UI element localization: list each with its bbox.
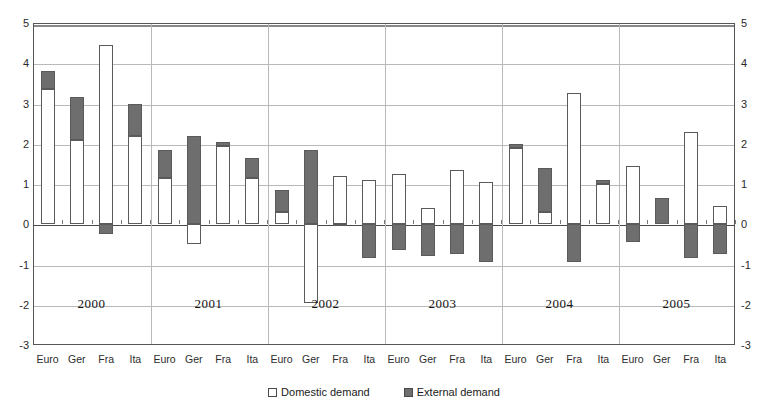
axis-tick-mark	[62, 220, 63, 224]
bar-segment-domestic-demand	[479, 182, 493, 224]
bar-segment-domestic-demand	[333, 176, 347, 224]
bar-2004-Euro	[509, 23, 523, 345]
bar-segment-external-demand	[509, 144, 523, 148]
axis-tick-mark	[501, 220, 502, 224]
bar-segment-external-demand	[684, 224, 698, 258]
stacked-bar-chart: 543210-1-2-3 543210-1-2-3 20002001200220…	[0, 0, 768, 415]
tick-label-ita: Ita	[247, 353, 259, 365]
bar-segment-external-demand	[333, 224, 347, 226]
axis-tick-mark	[355, 220, 356, 224]
chart-legend: Domestic demand External demand	[0, 386, 768, 398]
hollow-square-swatch-icon	[268, 388, 277, 397]
year-label-2001: 2001	[195, 296, 223, 312]
tick-label-ger: Ger	[419, 353, 437, 365]
y-tick-label-right: -2	[741, 299, 751, 310]
bar-segment-domestic-demand	[99, 45, 113, 224]
tick-label-ger: Ger	[185, 353, 203, 365]
tick-label-euro: Euro	[154, 353, 176, 365]
tick-label-ger: Ger	[68, 353, 86, 365]
year-group-separator	[502, 24, 503, 344]
bar-segment-domestic-demand	[684, 132, 698, 225]
year-group-separator	[385, 24, 386, 344]
y-tick-label-left: 5	[23, 18, 29, 29]
bar-2002-Ita	[362, 23, 376, 345]
bar-segment-external-demand	[362, 224, 376, 258]
bar-segment-domestic-demand	[275, 212, 289, 224]
axis-tick-mark	[530, 220, 531, 224]
axis-tick-mark	[472, 220, 473, 224]
bar-segment-domestic-demand	[128, 136, 142, 225]
y-tick-label-left: 0	[23, 219, 29, 230]
bar-segment-domestic-demand	[362, 180, 376, 224]
year-label-2000: 2000	[78, 296, 106, 312]
y-tick-label-left: -1	[19, 259, 29, 270]
axis-tick-mark	[443, 220, 444, 224]
bar-segment-domestic-demand	[450, 170, 464, 224]
bar-segment-domestic-demand	[187, 224, 201, 244]
bar-segment-domestic-demand	[216, 146, 230, 224]
bar-2005-Ita	[713, 23, 727, 345]
bar-segment-external-demand	[128, 104, 142, 136]
y-tick-label-right: 1	[741, 179, 747, 190]
bar-segment-external-demand	[479, 224, 493, 262]
y-tick-label-left: 3	[23, 98, 29, 109]
tick-label-fra: Fra	[98, 353, 114, 365]
y-tick-label-right: 2	[741, 138, 747, 149]
tick-label-ger: Ger	[536, 353, 554, 365]
bar-segment-external-demand	[567, 224, 581, 262]
y-tick-label-left: -2	[19, 299, 29, 310]
y-tick-label-right: -1	[741, 259, 751, 270]
bar-segment-external-demand	[187, 136, 201, 225]
bar-segment-external-demand	[596, 180, 610, 184]
legend-label-external-demand: External demand	[417, 386, 500, 398]
bar-segment-domestic-demand	[70, 140, 84, 225]
bar-segment-domestic-demand	[41, 89, 55, 224]
bar-segment-domestic-demand	[392, 174, 406, 224]
bar-segment-external-demand	[216, 142, 230, 146]
bar-segment-external-demand	[99, 224, 113, 234]
tick-label-euro: Euro	[388, 353, 410, 365]
bar-segment-external-demand	[275, 190, 289, 212]
bar-segment-external-demand	[626, 224, 640, 242]
bar-2005-Euro	[626, 23, 640, 345]
axis-tick-mark	[706, 220, 707, 224]
bar-segment-external-demand	[41, 71, 55, 89]
tick-label-fra: Fra	[215, 353, 231, 365]
tick-label-fra: Fra	[449, 353, 465, 365]
y-tick-label-left: -3	[19, 340, 29, 351]
tick-label-ita: Ita	[364, 353, 376, 365]
y-tick-label-left: 2	[23, 138, 29, 149]
bar-2003-Euro	[392, 23, 406, 345]
tick-label-ita: Ita	[130, 353, 142, 365]
bar-segment-external-demand	[713, 224, 727, 254]
axis-tick-mark	[92, 220, 93, 224]
bar-2001-Ita	[245, 23, 259, 345]
bar-segment-external-demand	[421, 224, 435, 256]
bar-2001-Euro	[158, 23, 172, 345]
tick-label-fra: Fra	[683, 353, 699, 365]
bar-segment-external-demand	[655, 198, 669, 224]
axis-tick-mark	[677, 220, 678, 224]
year-group-separator	[151, 24, 152, 344]
year-label-2003: 2003	[429, 296, 457, 312]
axis-tick-mark	[326, 220, 327, 224]
axis-tick-mark	[296, 220, 297, 224]
filled-square-swatch-icon	[404, 388, 413, 397]
year-label-2002: 2002	[312, 296, 340, 312]
y-tick-label-right: 5	[741, 18, 747, 29]
bar-segment-external-demand	[538, 168, 552, 212]
axis-tick-mark	[589, 220, 590, 224]
bar-2004-Ita	[596, 23, 610, 345]
axis-tick-mark	[384, 220, 385, 224]
bar-segment-external-demand	[245, 158, 259, 178]
year-label-2005: 2005	[663, 296, 691, 312]
axis-tick-mark	[121, 220, 122, 224]
axis-tick-mark	[618, 220, 619, 224]
bar-segment-domestic-demand	[538, 212, 552, 224]
bar-segment-domestic-demand	[567, 93, 581, 224]
tick-label-euro: Euro	[271, 353, 293, 365]
y-tick-label-right: -3	[741, 340, 751, 351]
bar-2000-Ita	[128, 23, 142, 345]
axis-tick-mark	[238, 220, 239, 224]
y-tick-label-right: 0	[741, 219, 747, 230]
